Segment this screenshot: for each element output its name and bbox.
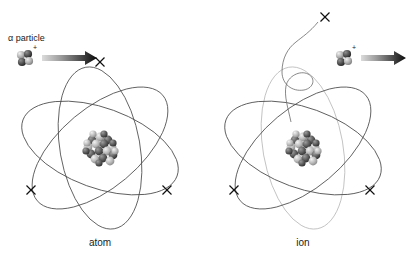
alpha-particle-incoming: +: [17, 44, 37, 66]
ion-caption: ion: [296, 237, 309, 248]
ion-panel: + ion: [212, 13, 406, 249]
diagram-canvas: + α particle atom: [0, 0, 409, 260]
ejected-electron: [321, 13, 330, 22]
ejection-path: [282, 22, 318, 122]
atom-panel: + α particle atom: [8, 33, 191, 248]
ion-nucleus: [285, 130, 321, 166]
alpha-arrow-outgoing: [361, 51, 406, 65]
electron-bottom-left: [27, 186, 36, 195]
atom-electrons: [27, 58, 172, 195]
electron-bottom-left: [230, 186, 239, 195]
alpha-charge-sign-outgoing: +: [352, 44, 356, 51]
alpha-ionisation-figure: + α particle atom: [0, 0, 409, 260]
alpha-particle-outgoing: +: [336, 44, 356, 66]
alpha-charge-sign: +: [33, 44, 37, 51]
atom-nucleus: [82, 130, 118, 166]
alpha-particle-label: α particle: [8, 33, 45, 43]
alpha-arrow-incoming: [42, 51, 97, 65]
electron-top: [96, 58, 105, 67]
atom-caption: atom: [89, 237, 111, 248]
